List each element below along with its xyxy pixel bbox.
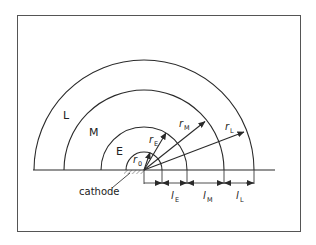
label-lE: l E — [171, 190, 179, 204]
svg-text:L: L — [230, 127, 234, 135]
arrow-rL — [144, 132, 244, 170]
figure-frame — [18, 16, 301, 232]
svg-text:0: 0 — [138, 160, 142, 168]
svg-text:l: l — [236, 190, 239, 201]
svg-text:L: L — [240, 196, 244, 204]
label-shell-M: M — [89, 126, 99, 139]
svg-text:E: E — [175, 196, 179, 204]
svg-text:M: M — [184, 124, 190, 132]
arrow-rE — [144, 133, 166, 170]
svg-text:l: l — [171, 190, 174, 201]
svg-text:l: l — [203, 190, 206, 201]
label-lM: l M — [203, 190, 213, 204]
core-arc-r0 — [126, 152, 162, 170]
svg-text:E: E — [154, 140, 158, 148]
shell-arc-M — [64, 90, 224, 170]
label-rL: r L — [225, 121, 234, 135]
label-rM: r M — [179, 118, 190, 132]
cathode-hatch — [124, 170, 144, 174]
label-shell-E: E — [116, 145, 123, 158]
label-r0: r 0 — [133, 154, 142, 168]
label-rE: r E — [149, 134, 158, 148]
shell-diagram: L M E r 0 r E r M r L l E l M l L cathod… — [0, 0, 316, 245]
label-cathode: cathode — [79, 186, 120, 197]
label-lL: l L — [236, 190, 244, 204]
label-shell-L: L — [63, 109, 70, 122]
svg-text:M: M — [207, 196, 213, 204]
shell-arc-E — [101, 127, 187, 170]
